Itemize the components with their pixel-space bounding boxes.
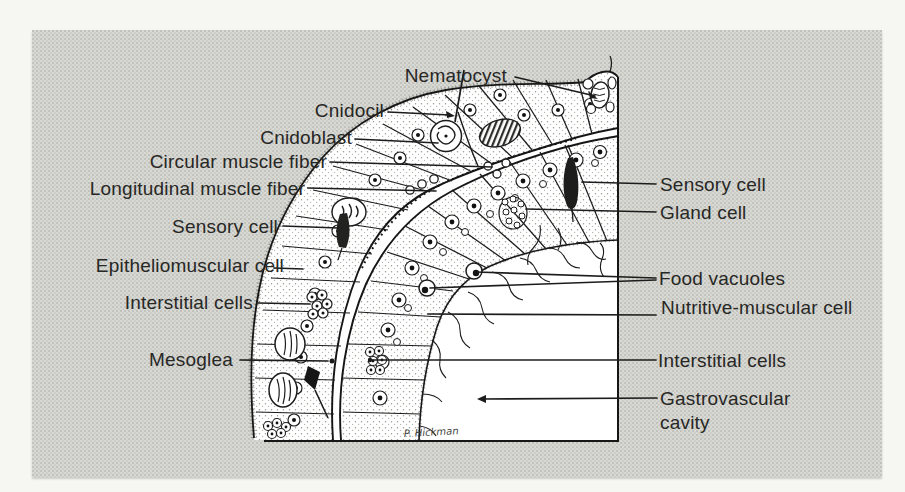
label-sensory-cell-right: Sensory cell — [660, 174, 766, 196]
label-epitheliomuscular-cell: Epitheliomuscular cell — [96, 255, 284, 277]
label-longitudinal-muscle-fiber: Longitudinal muscle fiber — [90, 178, 305, 200]
label-interstitial-cells-left: Interstitial cells — [125, 292, 253, 314]
label-food-vacuoles: Food vacuoles — [659, 268, 785, 290]
label-nutritive-muscular-cell: Nutritive-muscular cell — [661, 296, 853, 320]
label-sensory-cell-left: Sensory cell — [172, 216, 278, 238]
label-circular-muscle-fiber: Circular muscle fiber — [150, 151, 327, 173]
granular-cell — [332, 198, 366, 226]
label-interstitial-cells-right: Interstitial cells — [658, 350, 786, 372]
label-cnidoblast: Cnidoblast — [260, 127, 352, 149]
label-mesoglea: Mesoglea — [149, 349, 233, 371]
label-gastrovascular-cavity: Gastrovascular cavity — [660, 387, 840, 435]
label-gland-cell: Gland cell — [660, 202, 747, 224]
label-cnidocil: Cnidocil — [315, 100, 384, 122]
cnidoblast-cell — [431, 121, 462, 152]
label-nematocyst: Nematocyst — [405, 65, 507, 87]
page-root: { "labels": { "nematocyst": "Nematocyst"… — [0, 0, 905, 492]
